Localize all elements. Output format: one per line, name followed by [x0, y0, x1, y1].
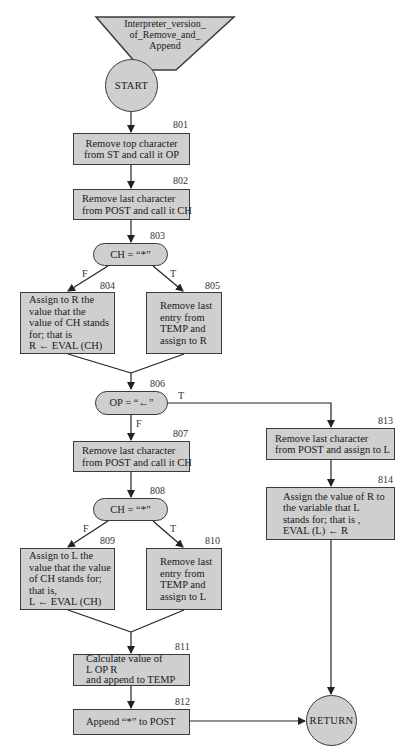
step-802-text: Remove last character from POST and call… [82, 193, 192, 216]
step-807-box: Remove last character from POST and call… [73, 441, 190, 472]
step-number-813: 813 [378, 415, 393, 426]
decision-803-text: CH = “*” [110, 249, 150, 261]
step-number-808: 808 [150, 485, 165, 496]
step-number-806: 806 [150, 378, 165, 389]
decision-806-text: OP = “←” [109, 397, 153, 409]
branch-808-false: F [83, 523, 89, 534]
branch-803-true: T [170, 268, 176, 279]
step-number-811: 811 [175, 641, 190, 652]
branch-806-false: F [136, 418, 142, 429]
step-812-text: Append “*” to POST [86, 716, 176, 728]
step-804-box: Assign to R the value that the value of … [20, 292, 115, 354]
start-terminal: START [105, 59, 158, 112]
procedure-title: Interpreter_version_ of_Remove_and_ Appe… [96, 18, 234, 51]
decision-808: CH = “*” [93, 498, 168, 521]
step-810-box: Remove last entry from TEMP and assign t… [146, 548, 222, 610]
step-805-box: Remove last entry from TEMP and assign t… [146, 292, 222, 354]
flowchart: Interpreter_version_ of_Remove_and_ Appe… [0, 0, 412, 756]
return-terminal: RETURN [306, 695, 357, 746]
branch-808-true: T [170, 523, 176, 534]
connectors [0, 0, 412, 756]
step-811-text: Calculate value of L OP R and append to … [86, 654, 175, 686]
step-number-802: 802 [173, 175, 188, 186]
decision-803: CH = “*” [93, 243, 168, 266]
step-813-box: Remove last character from POST and assi… [266, 428, 395, 460]
step-812-box: Append “*” to POST [73, 709, 190, 735]
step-809-text: Assign to L the value that the value of … [29, 550, 111, 608]
step-number-805: 805 [205, 280, 220, 291]
decision-806: OP = “←” [95, 391, 168, 415]
step-804-text: Assign to R the value that the value of … [29, 294, 109, 352]
step-number-804: 804 [100, 280, 115, 291]
step-814-text: Assign the value of R to the variable th… [283, 491, 385, 537]
start-label: START [115, 80, 148, 92]
step-813-text: Remove last character from POST and assi… [275, 433, 390, 456]
step-811-box: Calculate value of L OP R and append to … [73, 654, 190, 686]
step-814-box: Assign the value of R to the variable th… [266, 487, 395, 540]
step-number-812: 812 [175, 696, 190, 707]
decision-808-text: CH = “*” [110, 504, 150, 516]
step-number-807: 807 [173, 428, 188, 439]
step-number-803: 803 [150, 230, 165, 241]
step-number-814: 814 [378, 474, 393, 485]
branch-803-false: F [82, 268, 88, 279]
step-807-text: Remove last character from POST and call… [82, 445, 192, 468]
step-801-box: Remove top character from ST and call it… [73, 133, 190, 165]
step-810-text: Remove last entry from TEMP and assign t… [160, 556, 212, 602]
branch-806-true: T [178, 390, 184, 401]
step-805-text: Remove last entry from TEMP and assign t… [160, 300, 212, 346]
step-number-809: 809 [100, 535, 115, 546]
step-801-text: Remove top character from ST and call it… [84, 138, 179, 161]
step-number-810: 810 [205, 535, 220, 546]
step-809-box: Assign to L the value that the value of … [20, 548, 115, 610]
step-802-box: Remove last character from POST and call… [73, 189, 190, 220]
return-label: RETURN [310, 715, 354, 727]
step-number-801: 801 [173, 119, 188, 130]
